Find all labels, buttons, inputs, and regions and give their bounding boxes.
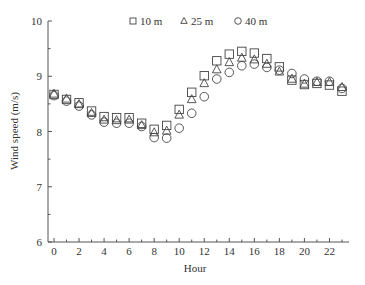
y-axis-title: Wind speed (m/s) — [8, 92, 21, 170]
y-axis-ticks: 678910 — [31, 15, 52, 248]
triangle-legend-icon — [181, 18, 187, 24]
x-tick-label: 10 — [174, 245, 186, 257]
x-tick-label: 8 — [151, 245, 157, 257]
triangle-marker — [162, 126, 171, 134]
x-axis-ticks: 0246810121416182022 — [51, 238, 342, 257]
square-marker — [250, 49, 258, 57]
chart-canvas: 678910 0246810121416182022 Hour Wind spe… — [0, 0, 365, 285]
circle-marker — [100, 118, 109, 127]
square-marker — [150, 125, 158, 133]
x-tick-label: 22 — [324, 245, 335, 257]
triangle-marker — [238, 53, 247, 61]
circle-marker — [225, 68, 234, 77]
triangle-marker — [225, 58, 234, 66]
circle-marker — [250, 60, 259, 69]
circle-marker — [187, 109, 196, 118]
legend-item-10m: 10 m — [130, 15, 163, 27]
legend-item-40m: 40 m — [235, 15, 268, 27]
square-marker — [238, 47, 246, 55]
x-tick-label: 12 — [199, 245, 210, 257]
y-tick-label: 8 — [37, 126, 43, 138]
square-legend-icon — [130, 18, 136, 24]
y-tick-label: 10 — [31, 15, 43, 27]
x-tick-label: 14 — [224, 245, 236, 257]
circle-marker — [62, 97, 71, 106]
x-tick-label: 16 — [249, 245, 261, 257]
circle-legend-icon — [235, 18, 242, 25]
legend-label: 40 m — [245, 15, 268, 27]
circle-marker — [238, 61, 247, 70]
x-tick-label: 0 — [51, 245, 57, 257]
data-points — [50, 47, 347, 142]
x-tick-label: 18 — [274, 245, 286, 257]
x-tick-label: 4 — [101, 245, 107, 257]
circle-marker — [175, 124, 184, 133]
series-10m — [50, 47, 346, 133]
square-marker — [213, 57, 221, 65]
y-tick-label: 6 — [37, 236, 43, 248]
y-tick-label: 9 — [37, 70, 43, 82]
legend-label: 10 m — [140, 15, 163, 27]
x-tick-label: 20 — [299, 245, 311, 257]
series-25m — [50, 53, 347, 136]
x-tick-label: 2 — [76, 245, 82, 257]
circle-marker — [200, 92, 209, 101]
triangle-marker — [212, 65, 221, 73]
legend: 10 m25 m40 m — [130, 15, 268, 27]
circle-marker — [212, 75, 221, 84]
triangle-marker — [175, 110, 184, 118]
axes — [48, 21, 349, 242]
triangle-marker — [187, 95, 196, 103]
legend-item-25m: 25 m — [181, 15, 214, 27]
y-tick-label: 7 — [37, 181, 43, 193]
x-axis-title: Hour — [184, 262, 207, 274]
circle-marker — [162, 134, 171, 143]
legend-label: 25 m — [191, 15, 214, 27]
x-tick-label: 6 — [126, 245, 132, 257]
circle-marker — [150, 133, 159, 142]
wind-speed-chart: 678910 0246810121416182022 Hour Wind spe… — [0, 0, 365, 285]
series-40m — [50, 60, 347, 143]
